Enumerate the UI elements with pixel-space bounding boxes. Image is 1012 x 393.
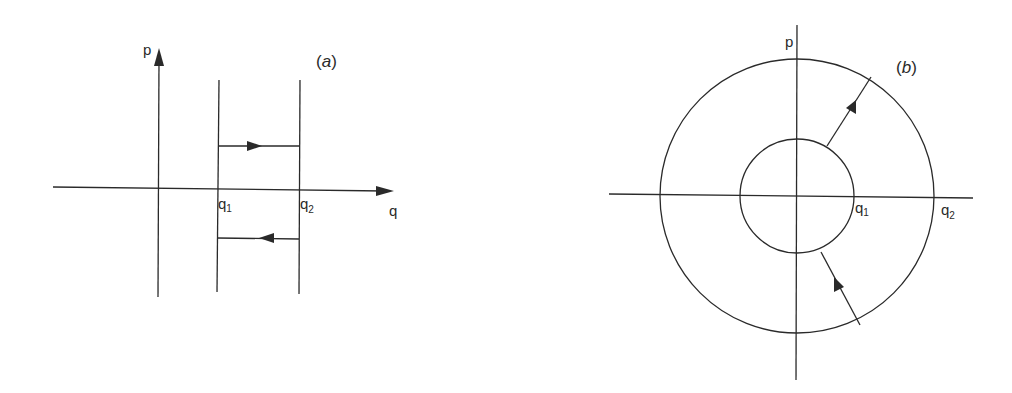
panel-label-a: (a)	[316, 52, 337, 71]
q1-line	[217, 80, 219, 292]
panel-letter-b: b	[902, 58, 911, 77]
q1-base-a: q	[218, 195, 226, 212]
q1-base-b: q	[855, 199, 863, 216]
q2-label-a: q2	[300, 195, 314, 215]
q1-label-b: q1	[855, 199, 869, 218]
q1-label-a: q1	[218, 195, 232, 214]
p-axis-arrowhead-icon	[154, 48, 164, 66]
panel-a: p q (a) q1 q2	[53, 41, 397, 297]
p-axis-a	[158, 58, 159, 297]
q-axis-b	[609, 194, 973, 198]
panel-b: p (b) q1 q2	[609, 25, 973, 380]
q2-line	[299, 80, 300, 294]
left-arrow-icon	[259, 233, 274, 243]
phase-space-figure: p q (a) q1 q2 p (b) q1 q2	[0, 0, 1012, 393]
p-label-b: p	[785, 33, 793, 50]
outward-trajectory-b	[827, 77, 871, 146]
panel-letter-a: a	[322, 52, 331, 71]
q1-sub-a: 1	[226, 203, 232, 214]
q-label-a: q	[389, 202, 397, 219]
p-label-a: p	[143, 41, 151, 58]
q2-sub-b: 2	[949, 210, 955, 221]
p-axis-b	[796, 25, 797, 380]
outward-arrow-icon	[846, 100, 856, 114]
q2-label-b: q2	[941, 201, 955, 221]
panel-label-b: (b)	[896, 58, 917, 77]
q2-base-b: q	[941, 201, 949, 218]
q1-sub-b: 1	[863, 207, 869, 218]
q2-sub-a: 2	[308, 204, 314, 215]
lower-trajectory-a	[217, 238, 299, 239]
right-arrow-icon	[247, 141, 262, 151]
q-axis-arrowhead-icon	[376, 186, 394, 196]
q2-base-a: q	[300, 195, 308, 212]
inward-arrow-icon	[834, 277, 844, 292]
